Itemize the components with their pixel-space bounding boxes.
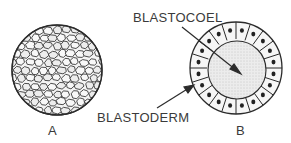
blastoderm-arrow [157, 85, 194, 108]
panel-label-a: A [48, 124, 57, 137]
panel-label-b: B [236, 124, 245, 137]
morula-drawing [3, 17, 117, 123]
blastocoel-label: BLASTOCOEL [133, 11, 222, 24]
blastoderm-label: BLASTODERM [97, 111, 189, 124]
